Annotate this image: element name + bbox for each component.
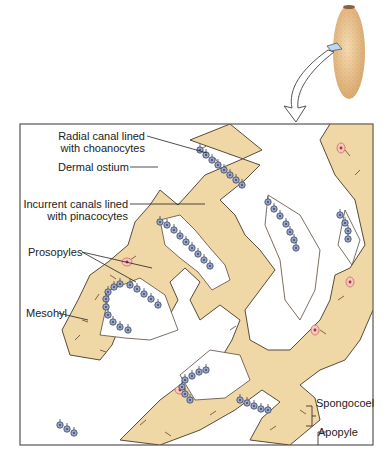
label-incurrent-line2: with pinacocytes — [22, 210, 128, 222]
label-apopyle: Apopyle — [318, 426, 358, 438]
label-incurrent-canals: Incurrent canals lined with pinacocytes — [22, 198, 128, 222]
label-mesohyl: Mesohyl — [26, 307, 67, 319]
label-dermal-ostium: Dermal ostium — [58, 161, 129, 173]
label-radial-canal: Radial canal lined with choanocytes — [57, 130, 145, 154]
sponge-diagram: Radial canal lined with choanocytes Derm… — [0, 0, 387, 458]
diagram-canvas — [0, 0, 387, 458]
zoom-arrow-icon — [284, 50, 334, 122]
label-prosopyles: Prosopyles — [28, 246, 82, 258]
label-spongocoel: Spongocoel — [316, 397, 374, 409]
label-radial-canal-line2: with choanocytes — [57, 142, 145, 154]
label-incurrent-line1: Incurrent canals lined — [22, 198, 128, 210]
label-radial-canal-line1: Radial canal lined — [57, 130, 145, 142]
